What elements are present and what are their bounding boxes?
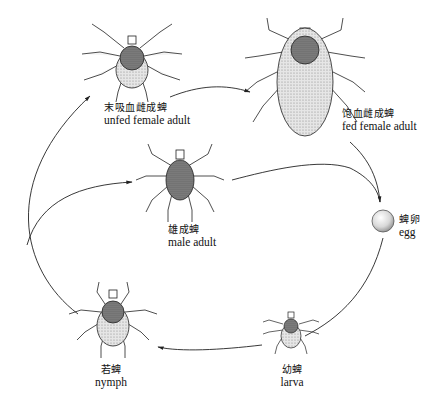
label-larva: 幼蜱 larva — [270, 364, 314, 388]
label-nymph: 若蜱 nymph — [88, 364, 134, 388]
label-unfed-female: 末吸血雌成蜱 unfed female adult — [104, 102, 190, 126]
label-fed-female-zh: 饱血雌成蜱 — [342, 108, 417, 120]
egg-illustration — [372, 210, 394, 232]
label-egg-zh: 蜱卵 — [399, 214, 420, 226]
unfed-female-tick-illustration — [82, 24, 182, 102]
label-egg: 蜱卵 egg — [399, 214, 420, 238]
label-male: 雄成蜱 male adult — [168, 224, 216, 248]
arrow-nymph-to-unfed — [28, 96, 90, 314]
label-fed-female-en: fed female adult — [342, 120, 417, 132]
label-nymph-zh: 若蜱 — [88, 364, 134, 376]
arrow-male-to-egg — [232, 164, 380, 202]
label-unfed-female-zh: 末吸血雌成蜱 — [104, 102, 190, 114]
label-nymph-en: nymph — [88, 376, 134, 388]
label-male-zh: 雄成蜱 — [168, 224, 216, 236]
label-larva-zh: 幼蜱 — [270, 364, 314, 376]
label-egg-en: egg — [399, 226, 420, 238]
tick-life-cycle-diagram — [0, 0, 438, 399]
male-tick-illustration — [136, 144, 224, 222]
label-larva-en: larva — [270, 376, 314, 388]
label-unfed-female-en: unfed female adult — [104, 114, 190, 126]
nymph-tick-illustration — [69, 282, 157, 358]
label-fed-female: 饱血雌成蜱 fed female adult — [342, 108, 417, 132]
arrow-fed-to-egg — [350, 142, 380, 202]
arrow-larva-to-nymph — [158, 345, 262, 350]
arrow-unfed-to-fed — [170, 87, 250, 97]
label-male-en: male adult — [168, 236, 216, 248]
arrow-nymph-to-male — [27, 182, 132, 245]
